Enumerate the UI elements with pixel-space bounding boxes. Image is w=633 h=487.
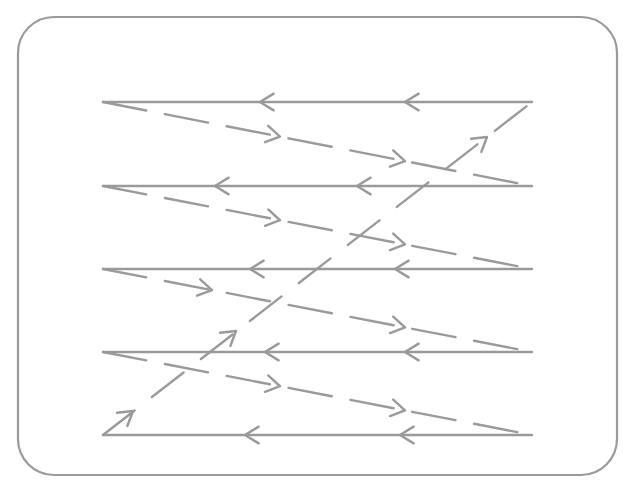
arrow-up-right-icon bbox=[471, 137, 487, 152]
retrace-line-2 bbox=[103, 186, 532, 269]
retrace-line-1 bbox=[103, 102, 532, 186]
raster-scan-diagram: Raster scan pattern bbox=[0, 0, 633, 487]
diagram-canvas bbox=[0, 0, 633, 487]
retrace-line-4 bbox=[103, 352, 532, 435]
retrace-line-3 bbox=[103, 269, 532, 352]
frame-border bbox=[18, 17, 617, 475]
